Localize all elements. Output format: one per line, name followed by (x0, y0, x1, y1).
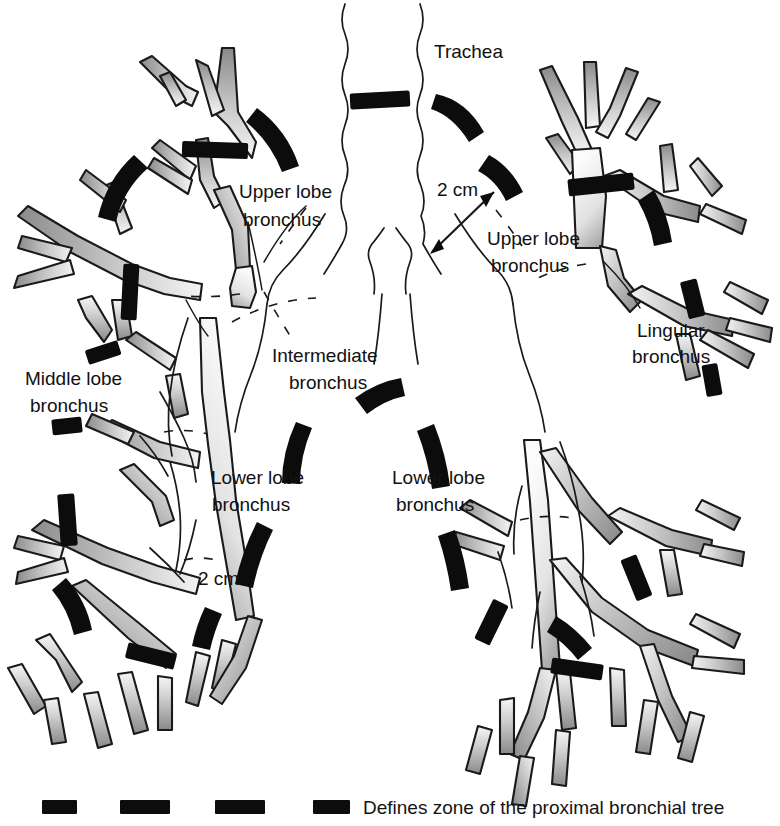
label-right-lower-lobe-bronchus-line2: bronchus (212, 494, 290, 515)
zone-marker-bars (51, 90, 722, 680)
legend-swatch (42, 800, 77, 814)
legend-swatch (120, 800, 170, 814)
zone-marker-bar (478, 155, 523, 201)
zone-marker-bar (701, 363, 722, 397)
label-intermediate-bronchus-line1: Intermediate (272, 345, 378, 366)
label-right-lower-lobe-bronchus-line1: Lower lobe (211, 467, 304, 488)
label-lingular-bronchus-line2: bronchus (632, 346, 710, 367)
label-right-upper-lobe-bronchus-line1: Upper lobe (239, 181, 332, 202)
label-trachea: Trachea (434, 41, 503, 62)
bronchial-tree-diagram: Trachea Upper lobe bronchus 2 cm Upper l… (0, 0, 780, 826)
zone-marker-bar (620, 554, 652, 601)
label-left-upper-lobe-bronchus-line1: Upper lobe (487, 228, 580, 249)
label-middle-lobe-bronchus-line2: bronchus (30, 395, 108, 416)
bronchial-tree-figure: Trachea Upper lobe bronchus 2 cm Upper l… (0, 0, 780, 826)
legend: Defines zone of the proximal bronchial t… (42, 797, 724, 818)
zone-marker-bar (474, 599, 509, 646)
legend-swatch (215, 800, 265, 814)
zone-marker-bar (431, 94, 484, 142)
zone-marker-bar (51, 416, 83, 435)
label-intermediate-bronchus-line2: bronchus (289, 372, 367, 393)
label-left-lower-lobe-bronchus-line1: Lower lobe (392, 467, 485, 488)
zone-marker-bar (121, 264, 140, 321)
zone-marker-bar (57, 493, 78, 546)
zone-marker-bar (182, 141, 249, 159)
zone-marker-bar (192, 607, 222, 650)
legend-swatch (313, 800, 350, 814)
scale-arrow-upper (430, 192, 494, 254)
label-scale-upper: 2 cm (437, 179, 478, 200)
label-left-lower-lobe-bronchus-line2: bronchus (396, 494, 474, 515)
label-scale-lower: 2 cm (198, 568, 239, 589)
label-lingular-bronchus-line1: Lingular (637, 320, 705, 341)
label-left-upper-lobe-bronchus-line2: bronchus (491, 255, 569, 276)
zone-marker-bar (350, 90, 411, 109)
trachea-airway (324, 4, 441, 274)
legend-caption: Defines zone of the proximal bronchial t… (363, 797, 724, 818)
label-right-upper-lobe-bronchus-line2: bronchus (243, 209, 321, 230)
zone-marker-bar (85, 340, 122, 365)
label-middle-lobe-bronchus-line1: Middle lobe (25, 368, 122, 389)
